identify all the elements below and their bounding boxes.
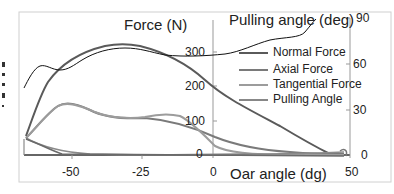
left-tick-300: 300 xyxy=(185,45,205,59)
legend-label-normal: Normal Force xyxy=(273,45,346,59)
left-tick-100: 100 xyxy=(185,114,205,128)
legend-label-pulling: Pulling Angle xyxy=(273,92,343,106)
legend-label-tangential: Tangential Force xyxy=(273,77,362,91)
right-tick-30: 30 xyxy=(353,103,367,117)
series-axial-force xyxy=(26,103,344,154)
x-tick-0: 0 xyxy=(210,165,217,179)
force-chart: Force (N) Pulling angle (deg) Oar angle … xyxy=(0,0,394,194)
x-tick-neg50: -50 xyxy=(62,165,80,179)
force-axis-title: Force (N) xyxy=(124,16,187,33)
left-tick-0: 0 xyxy=(196,147,203,161)
left-tick-200: 200 xyxy=(185,79,205,93)
right-tick-60: 60 xyxy=(353,57,367,71)
right-tick-0: 0 xyxy=(361,148,368,162)
legend: Normal Force Axial Force Tangential Forc… xyxy=(239,45,362,106)
clipped-side-text xyxy=(2,62,5,107)
legend-label-axial: Axial Force xyxy=(273,62,333,76)
x-axis-title: Oar angle (dg) xyxy=(230,165,327,182)
series-tangential-force xyxy=(26,104,344,155)
x-tick-neg25: -25 xyxy=(132,165,150,179)
x-tick-50: 50 xyxy=(345,165,359,179)
right-tick-90: 90 xyxy=(356,11,370,25)
pulling-angle-axis-title: Pulling angle (deg) xyxy=(229,11,354,28)
